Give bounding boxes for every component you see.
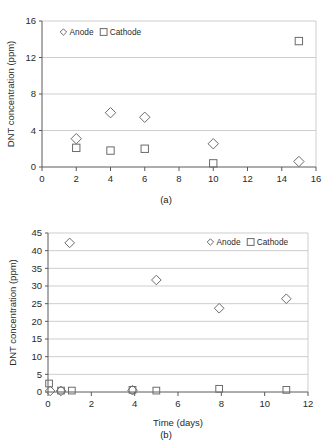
x-tick-label: 2 bbox=[74, 173, 79, 184]
x-tick-label: 6 bbox=[175, 398, 180, 409]
x-tick-label: 8 bbox=[219, 398, 224, 409]
data-point-anode bbox=[45, 386, 55, 396]
data-point-cathode bbox=[46, 380, 53, 387]
data-point-anode bbox=[214, 303, 224, 313]
x-tick-label: 4 bbox=[132, 398, 137, 409]
data-point-cathode bbox=[107, 147, 114, 154]
data-point-anode bbox=[140, 112, 150, 122]
data-point-cathode bbox=[210, 160, 217, 167]
legend-marker-cathode bbox=[100, 29, 107, 36]
x-tick-label: 10 bbox=[208, 173, 219, 184]
y-tick-label: 16 bbox=[25, 15, 36, 26]
data-point-anode bbox=[282, 294, 292, 304]
x-tick-label: 0 bbox=[39, 173, 44, 184]
legend-label-cathode: Cathode bbox=[110, 27, 142, 37]
y-tick-label: 40 bbox=[31, 245, 42, 256]
legend-marker-cathode bbox=[247, 239, 254, 246]
x-tick-label: 0 bbox=[45, 398, 50, 409]
y-tick-label: 0 bbox=[31, 161, 36, 172]
x-tick-label: 12 bbox=[303, 398, 314, 409]
y-tick-label: 45 bbox=[31, 227, 42, 238]
data-point-cathode bbox=[295, 37, 302, 44]
y-axis-title: DNT concentration (ppm) bbox=[5, 41, 16, 147]
x-tick-label: 8 bbox=[176, 173, 181, 184]
data-point-cathode bbox=[153, 387, 160, 394]
figure-container: 04812160246810121416Time (days)DNT conce… bbox=[0, 0, 332, 448]
panel-b-caption: (b) bbox=[0, 429, 332, 440]
y-tick-label: 12 bbox=[25, 52, 36, 63]
y-tick-label: 4 bbox=[31, 125, 36, 136]
y-tick-label: 30 bbox=[31, 280, 42, 291]
scatter-chart-b: 051015202530354045024681012Time (days)DN… bbox=[0, 210, 332, 429]
y-tick-label: 10 bbox=[31, 351, 42, 362]
y-tick-label: 8 bbox=[31, 88, 36, 99]
chart-a-svg-holder: 04812160246810121416Time (days)DNT conce… bbox=[0, 0, 332, 192]
legend-label-cathode: Cathode bbox=[257, 237, 289, 247]
x-tick-label: 12 bbox=[242, 173, 253, 184]
panel-a-caption: (a) bbox=[0, 194, 332, 205]
y-tick-label: 5 bbox=[37, 369, 42, 380]
data-point-cathode bbox=[141, 145, 148, 152]
chart-panel-b: 051015202530354045024681012Time (days)DN… bbox=[0, 210, 332, 448]
data-point-anode bbox=[152, 275, 162, 285]
x-tick-label: 10 bbox=[259, 398, 270, 409]
y-tick-label: 35 bbox=[31, 263, 42, 274]
x-tick-label: 6 bbox=[142, 173, 147, 184]
y-tick-label: 25 bbox=[31, 298, 42, 309]
y-tick-label: 20 bbox=[31, 316, 42, 327]
x-tick-label: 2 bbox=[89, 398, 94, 409]
legend-marker-anode bbox=[60, 29, 66, 35]
x-tick-label: 4 bbox=[108, 173, 113, 184]
data-point-anode bbox=[294, 156, 304, 166]
data-point-anode bbox=[71, 134, 81, 144]
data-point-anode bbox=[65, 238, 75, 248]
legend-label-anode: Anode bbox=[217, 237, 241, 247]
data-point-cathode bbox=[216, 385, 223, 392]
scatter-chart-a: 04812160246810121416Time (days)DNT conce… bbox=[0, 0, 332, 192]
data-point-cathode bbox=[73, 144, 80, 151]
legend-marker-anode bbox=[207, 239, 213, 245]
y-tick-label: 0 bbox=[37, 386, 42, 397]
data-point-anode bbox=[105, 108, 115, 118]
x-tick-label: 16 bbox=[311, 173, 322, 184]
chart-b-svg-holder: 051015202530354045024681012Time (days)DN… bbox=[0, 210, 332, 429]
y-axis-title: DNT concentration (ppm) bbox=[7, 259, 18, 365]
data-point-cathode bbox=[68, 387, 75, 394]
legend-label-anode: Anode bbox=[70, 27, 94, 37]
y-tick-label: 15 bbox=[31, 333, 42, 344]
x-tick-label: 14 bbox=[276, 173, 287, 184]
data-point-anode bbox=[208, 139, 218, 149]
x-axis-title: Time (days) bbox=[153, 417, 203, 428]
chart-panel-a: 04812160246810121416Time (days)DNT conce… bbox=[0, 0, 332, 210]
